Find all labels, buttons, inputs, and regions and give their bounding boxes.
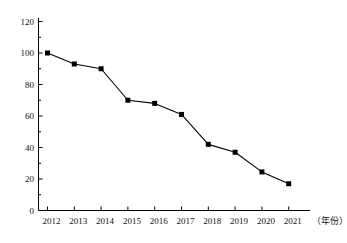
data-point-marker: [72, 62, 77, 67]
data-point-marker: [206, 142, 211, 147]
data-point-marker: [286, 181, 291, 186]
x-axis-tick-label: 2017: [177, 217, 195, 226]
data-point-marker: [99, 66, 104, 71]
x-axis-tick-label: 2013: [69, 217, 87, 226]
data-point-marker: [45, 51, 50, 56]
y-axis-tick-label: 20: [2, 175, 34, 184]
x-axis-tick-label: 2021: [284, 217, 302, 226]
data-point-marker: [233, 150, 238, 155]
y-axis-tick-label: 40: [2, 143, 34, 152]
x-axis-title: （年份）: [312, 217, 347, 226]
x-axis-tick-label: 2014: [96, 217, 114, 226]
y-axis-tick-label: 0: [2, 206, 34, 215]
data-series-line: [48, 53, 289, 184]
data-point-marker: [152, 101, 157, 106]
y-axis-tick-label: 100: [2, 49, 34, 58]
x-axis-ticks: [48, 207, 289, 211]
data-point-marker: [125, 98, 130, 103]
x-axis-tick-label: 2019: [230, 217, 248, 226]
x-axis-tick-label: 2018: [203, 217, 221, 226]
x-axis-tick-label: 2012: [43, 217, 61, 226]
y-axis-tick-label: 60: [2, 112, 34, 121]
data-point-marker: [179, 112, 184, 117]
line-chart: 020406080100120 201220132014201520162017…: [0, 0, 347, 243]
x-axis-tick-label: 2015: [123, 217, 141, 226]
x-axis-tick-label: 2020: [257, 217, 275, 226]
y-axis-tick-label: 120: [2, 17, 34, 26]
y-axis-ticks: [39, 22, 43, 211]
chart-plot-area: [0, 0, 347, 243]
x-axis-tick-label: 2016: [150, 217, 168, 226]
y-axis-tick-label: 80: [2, 80, 34, 89]
data-point-marker: [259, 169, 264, 174]
